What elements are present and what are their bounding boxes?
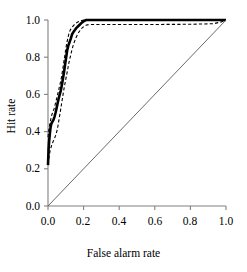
x-tick-label-1.0: 1.0 — [209, 215, 243, 227]
x-tick-label-0.4: 0.4 — [102, 215, 136, 227]
x-tick-label-0.0: 0.0 — [31, 215, 65, 227]
x-tick-label-0.2: 0.2 — [66, 215, 100, 227]
series-chance-line — [48, 20, 226, 206]
x-tick-label-0.8: 0.8 — [173, 215, 207, 227]
roc-chart-figure: 1.0 0.8 0.6 0.4 0.2 0.0 0.0 0.2 0.4 0.6 … — [0, 0, 247, 272]
x-tick-label-0.6: 0.6 — [138, 215, 172, 227]
y-tick-label-1.0: 1.0 — [10, 14, 40, 26]
x-axis-title: False alarm rate — [0, 247, 247, 259]
series-lower-confidence-band — [48, 20, 226, 164]
y-tick-label-0.0: 0.0 — [10, 200, 40, 212]
data-series-group — [48, 20, 226, 206]
y-axis-title: Hit rate — [5, 91, 17, 141]
series-upper-confidence-band — [48, 20, 226, 137]
y-tick-label-0.8: 0.8 — [10, 51, 40, 63]
y-tick-label-0.2: 0.2 — [10, 162, 40, 174]
